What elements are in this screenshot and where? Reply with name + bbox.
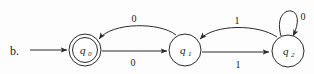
- edge-q2-q1: [200, 27, 277, 39]
- edge-q2-self-loop: [279, 11, 297, 36]
- state-q1-subscript: 1: [188, 50, 192, 58]
- state-q2-subscript: 2: [291, 51, 295, 59]
- fsm-svg: q 0 q 1 q 2 0 0 1 1 0 b.: [0, 0, 314, 74]
- fsm-diagram-canvas: q 0 q 1 q 2 0 0 1 1 0 b.: [0, 0, 314, 74]
- edge-label-q2-q1: 1: [235, 15, 240, 26]
- part-label: b.: [10, 44, 19, 58]
- state-q0-subscript: 0: [88, 50, 92, 58]
- edge-label-q2-self: 0: [301, 11, 306, 22]
- state-q0-label: q: [80, 44, 86, 56]
- edge-label-q0-q1: 0: [131, 57, 136, 68]
- edge-q1-q0: [99, 26, 176, 39]
- edge-label-q1-q2: 1: [236, 59, 241, 70]
- edge-label-q1-q0: 0: [132, 13, 137, 24]
- state-q1-label: q: [180, 44, 186, 56]
- state-q2-label: q: [283, 45, 289, 57]
